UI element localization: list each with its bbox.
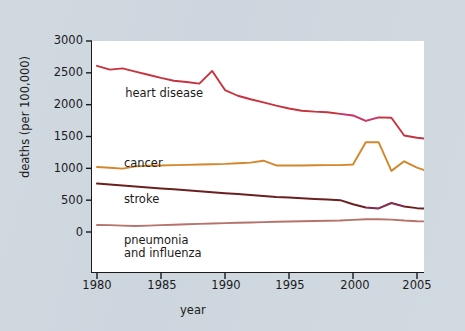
series-lines-layer (0, 0, 465, 331)
series-label-cancer: cancer (124, 157, 163, 170)
series-label-stroke: stroke (124, 193, 159, 206)
series-label-heart-disease: heart disease (125, 87, 203, 100)
chart-figure: 3000 2500 2000 1500 1000 500 0 1980 1985… (0, 0, 465, 331)
series-label-pneumonia-influenza: pneumoniaand influenza (124, 234, 202, 259)
series-label-line2: and influenza (124, 246, 202, 260)
series-line-pneumonia-and-influenza (97, 219, 430, 226)
series-line-heart-disease (97, 66, 430, 139)
